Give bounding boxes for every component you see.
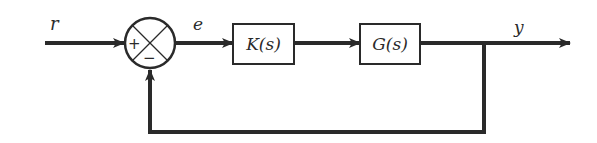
- reference-input-signal: r: [45, 13, 124, 43]
- feedback-path: [150, 43, 484, 132]
- controller-label: K(s): [245, 34, 281, 54]
- plant-block: G(s): [360, 24, 420, 64]
- reference-label: r: [50, 13, 60, 34]
- error-signal: e: [175, 14, 233, 43]
- output-label: y: [513, 17, 524, 37]
- minus-sign: −: [143, 49, 156, 67]
- error-label: e: [193, 14, 203, 34]
- controller-block: K(s): [233, 24, 294, 64]
- summing-junction: + −: [125, 18, 175, 68]
- plus-sign: +: [128, 35, 141, 53]
- plant-label: G(s): [372, 34, 408, 54]
- output-signal: y: [420, 17, 570, 43]
- block-diagram: r + − e K(s) G(s) y: [0, 0, 597, 143]
